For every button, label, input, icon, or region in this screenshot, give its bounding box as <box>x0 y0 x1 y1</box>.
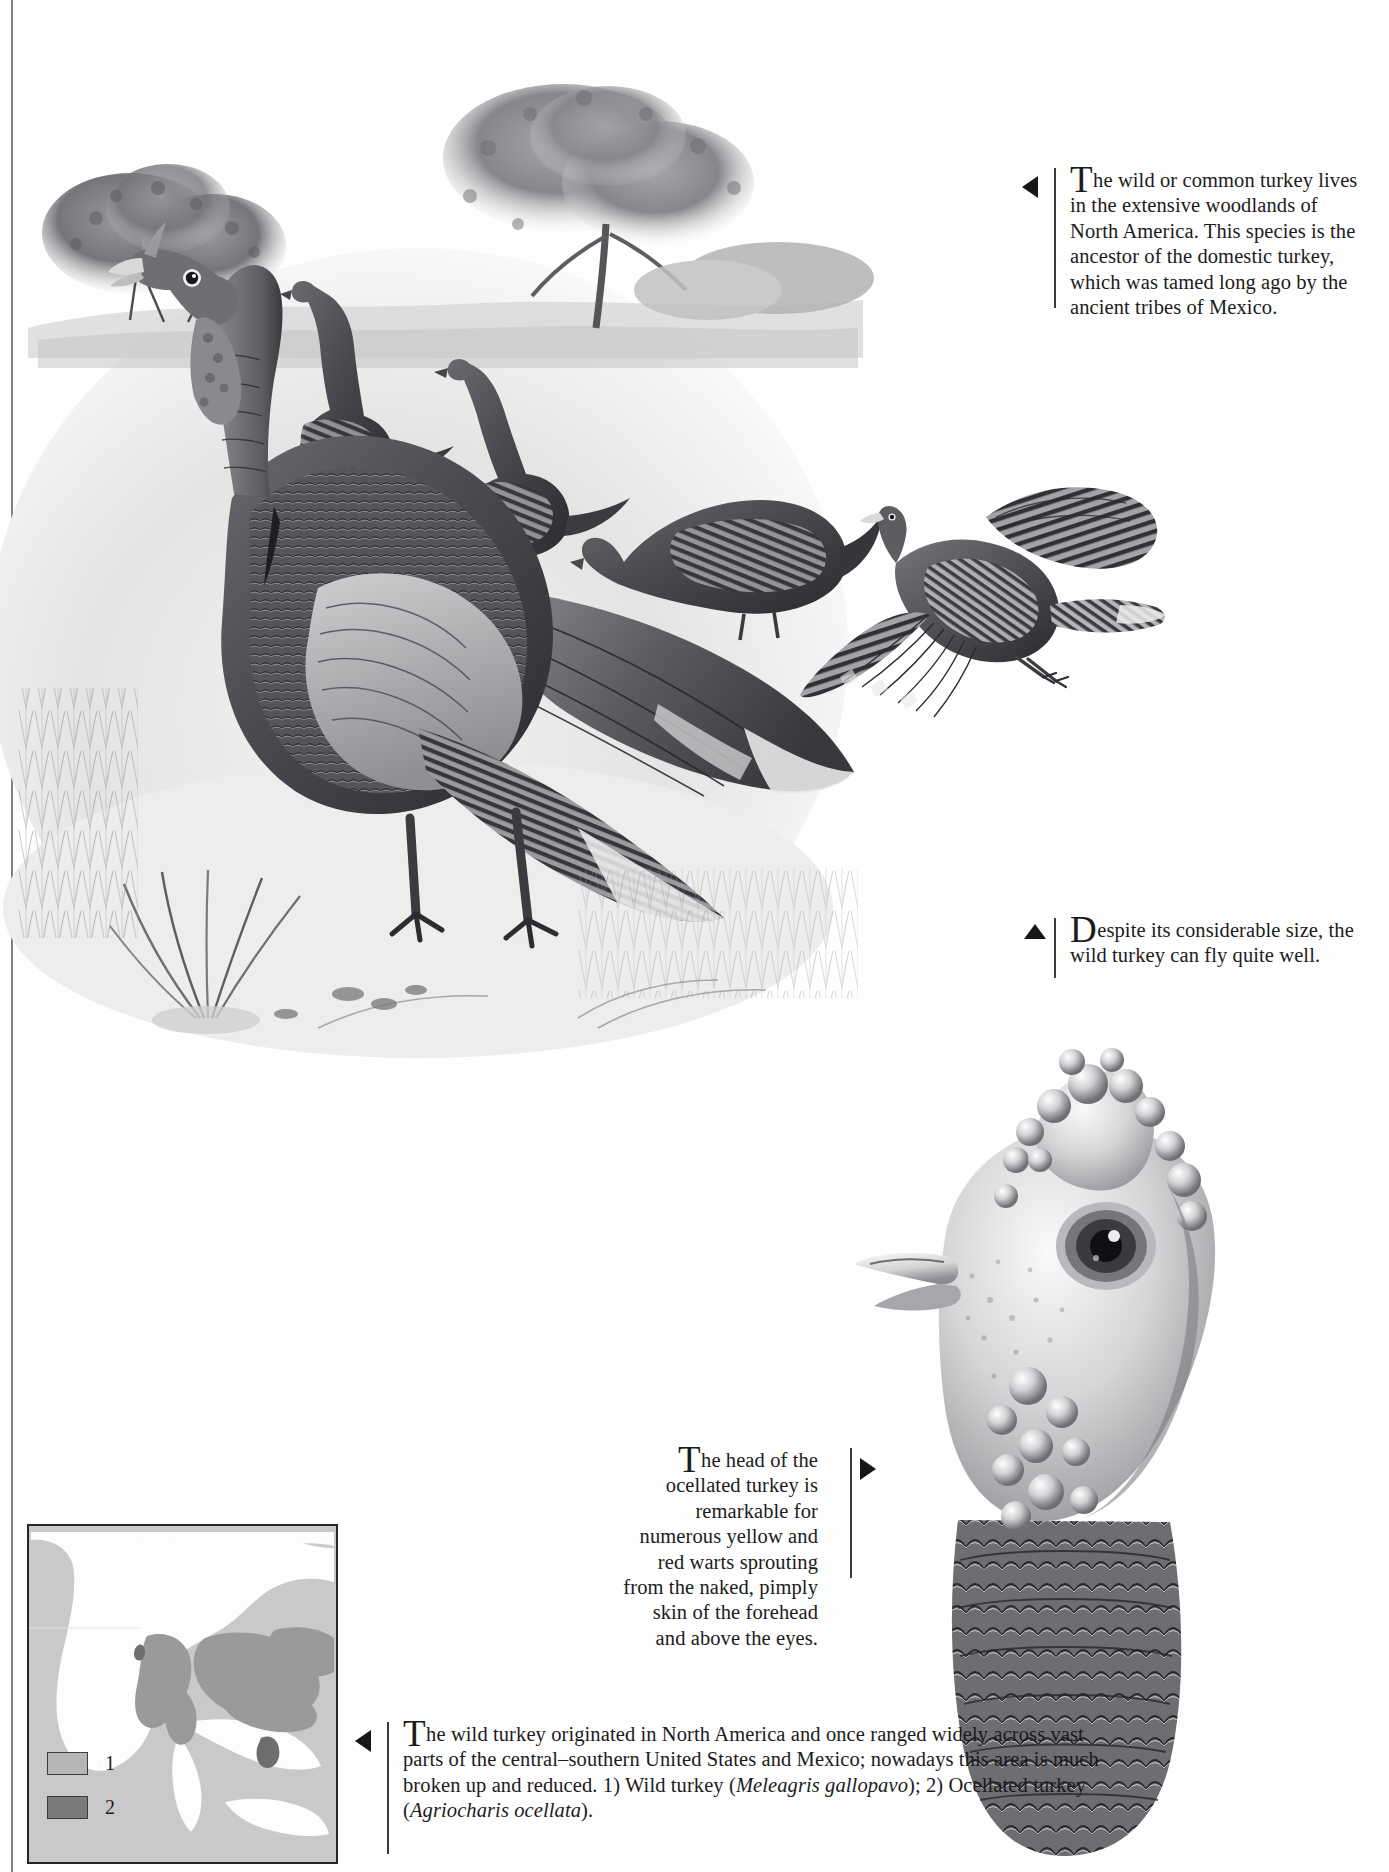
caption-flight: Despite its considerable size, the wild … <box>1022 918 1372 969</box>
legend-label-2: 2 <box>105 1796 115 1819</box>
legend-label-1: 1 <box>105 1752 115 1775</box>
caption-distribution-text: The wild turkey originated in North Amer… <box>403 1722 1103 1824</box>
dropcap: T <box>1070 159 1093 200</box>
caption-distribution-part3: ). <box>581 1799 593 1821</box>
triangle-left-icon <box>1022 176 1038 198</box>
triangle-left-icon <box>355 1730 371 1752</box>
caption-flight-text: Despite its considerable size, the wild … <box>1070 918 1370 969</box>
caption-woodlands: The wild or common turkey lives in the e… <box>1022 168 1372 320</box>
caption-flight-body: espite its considerable size, the wild t… <box>1070 919 1354 966</box>
map-legend: 1 2 <box>47 1752 115 1840</box>
triangle-up-icon <box>1024 924 1046 939</box>
caption-rule <box>1054 918 1056 978</box>
caption-distribution: The wild turkey originated in North Amer… <box>355 1722 1145 1824</box>
caption-ocellated-body: he head of the ocellated turkey is remar… <box>623 1449 818 1649</box>
legend-row-1: 1 <box>47 1752 115 1775</box>
caption-woodlands-text: The wild or common turkey lives in the e… <box>1070 168 1370 320</box>
legend-swatch-2 <box>47 1796 88 1819</box>
caption-rule <box>850 1448 852 1578</box>
caption-ocellated-text: The head of the ocellated turkey is rema… <box>620 1448 836 1651</box>
wild-turkey-in-flight-illustration <box>800 455 1170 745</box>
page-canvas: 1 2 The wild or common turkey lives in t… <box>0 0 1389 1872</box>
caption-rule <box>387 1722 389 1854</box>
dropcap: T <box>403 1713 426 1754</box>
wild-turkey-flock-landscape-illustration <box>18 28 873 1038</box>
triangle-right-icon <box>860 1458 876 1480</box>
species-name-wild-turkey: Meleagris gallopavo <box>736 1774 908 1796</box>
caption-woodlands-body: he wild or common turkey lives in the ex… <box>1070 169 1357 318</box>
distribution-map-panel[interactable]: 1 2 <box>27 1524 338 1864</box>
dropcap: D <box>1070 909 1097 950</box>
caption-ocellated-head: The head of the ocellated turkey is rema… <box>620 1448 852 1651</box>
legend-row-2: 2 <box>47 1796 115 1819</box>
legend-swatch-1 <box>47 1752 88 1775</box>
species-name-ocellated-turkey: Agriocharis ocellata <box>410 1799 581 1821</box>
caption-rule <box>1054 168 1056 308</box>
dropcap: T <box>678 1439 701 1480</box>
